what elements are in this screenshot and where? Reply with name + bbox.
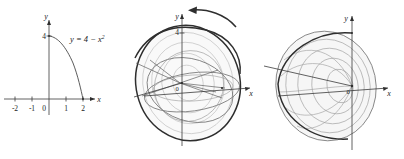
equation-exponent: 2 bbox=[102, 34, 105, 40]
x-tick-label-neg2: -2 bbox=[12, 104, 18, 113]
origin-label: 0 bbox=[175, 85, 178, 92]
rotation-direction-arrow bbox=[188, 7, 236, 28]
y-axis-label: y bbox=[174, 12, 179, 21]
rotation-arrow-arc bbox=[192, 10, 236, 27]
y-axis-label: y bbox=[43, 12, 48, 21]
solid-body-fill bbox=[266, 22, 387, 150]
origin-label: 0 bbox=[346, 88, 349, 95]
vertex-dot bbox=[48, 35, 50, 37]
origin-dot bbox=[181, 82, 183, 84]
x-tick-label-1: 1 bbox=[64, 104, 68, 113]
y-axis-label: y bbox=[343, 14, 348, 23]
panel-partial-revolution: y x 4 0 bbox=[130, 0, 268, 159]
equation-label: y = 4 − x2 bbox=[69, 34, 105, 44]
x-axis-arrowhead bbox=[90, 97, 95, 101]
x-tick-label-2: 2 bbox=[81, 104, 85, 113]
x-axis-label: x bbox=[248, 89, 253, 98]
y-tick-label-4: 4 bbox=[175, 28, 179, 37]
rotation-arrow-head bbox=[188, 7, 197, 15]
y-axis-arrowhead bbox=[350, 16, 354, 21]
y-axis-arrowhead bbox=[180, 14, 184, 19]
origin-dot bbox=[351, 85, 353, 87]
y-tick-label-4: 4 bbox=[42, 32, 46, 41]
x-tick-label-neg1: -1 bbox=[29, 104, 35, 113]
x-axis-label: x bbox=[96, 95, 101, 104]
equation-base: y = 4 − x bbox=[69, 34, 102, 44]
figure-root: x y -2 -1 0 1 2 4 y = 4 − x2 bbox=[0, 0, 404, 159]
origin-label: 0 bbox=[42, 104, 46, 113]
x-intercept-dot bbox=[221, 87, 223, 89]
vertex-dot bbox=[351, 32, 353, 34]
panel-parabola-graph: x y -2 -1 0 1 2 4 y = 4 − x2 bbox=[0, 0, 132, 159]
x-intercept-dot bbox=[82, 98, 84, 100]
panel-completed-solid: y x 0 bbox=[264, 0, 404, 159]
x-axis-label: x bbox=[386, 89, 391, 98]
parabola-curve bbox=[49, 36, 83, 99]
